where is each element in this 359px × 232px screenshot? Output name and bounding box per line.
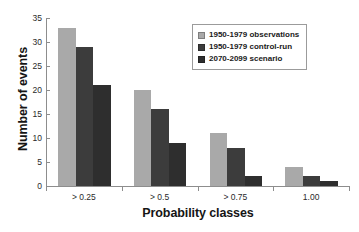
x-axis-tick-mark [122,187,123,191]
y-axis-tick-label: 30 [24,38,42,47]
y-axis-tick-labels: 05101520253035 [22,0,42,232]
bar [227,148,245,186]
bar [245,176,263,186]
y-axis-tick-label: 10 [24,134,42,143]
bar [169,143,187,186]
y-axis-tick-label: 15 [24,110,42,119]
x-axis-tick-mark [46,187,47,191]
legend-swatch-icon [198,44,205,51]
x-axis-title: Probability classes [46,206,350,220]
legend-swatch-icon [198,32,205,39]
chart-legend: 1950-1979 observations1950-1979 control-… [192,24,307,70]
y-axis-tick-label: 25 [24,62,42,71]
x-axis-tick-label: 1.00 [273,192,349,202]
bar [285,167,303,186]
legend-item: 2070-2099 scenario [198,53,299,65]
legend-swatch-icon [198,56,205,63]
x-axis-tick-label: > 0.25 [46,192,122,202]
legend-item: 1950-1979 observations [198,29,299,41]
bar [303,176,321,186]
legend-label: 1950-1979 observations [209,31,299,39]
x-axis-tick-mark [273,187,274,191]
legend-label: 2070-2099 scenario [209,55,282,63]
bar-chart: Number of events 05101520253035 > 0.25> … [0,0,359,232]
legend-label: 1950-1979 control-run [209,43,292,51]
bar [151,109,169,186]
x-axis-tick-mark [198,187,199,191]
x-axis-tick-label: > 0.5 [122,192,198,202]
legend-item: 1950-1979 control-run [198,41,299,53]
x-axis-tick-mark [349,187,350,191]
bar [210,133,228,186]
bar [93,85,111,186]
bar [76,47,94,186]
y-axis-tick-label: 5 [24,158,42,167]
bar [320,181,338,186]
bar [134,90,152,186]
y-axis-tick-label: 0 [24,182,42,191]
y-axis-tick-label: 20 [24,86,42,95]
x-axis-tick-label: > 0.75 [198,192,274,202]
x-axis-tick-labels: > 0.25> 0.5> 0.751.00 [46,192,350,206]
bar [58,28,76,186]
y-axis-tick-label: 35 [24,14,42,23]
